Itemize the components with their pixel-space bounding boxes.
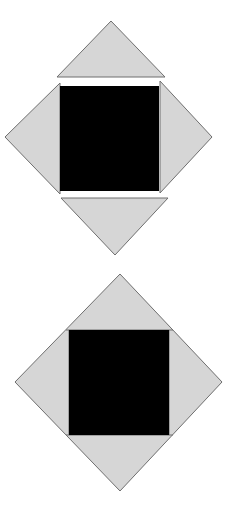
assembled-figure <box>15 274 222 491</box>
black-square <box>69 330 169 435</box>
triangle-left <box>5 83 60 194</box>
black-square <box>60 86 159 191</box>
exploded-figure <box>5 21 212 255</box>
diagram-canvas <box>0 0 237 513</box>
triangle-right <box>160 81 212 193</box>
triangle-top <box>57 21 165 77</box>
triangle-bottom <box>61 198 168 255</box>
